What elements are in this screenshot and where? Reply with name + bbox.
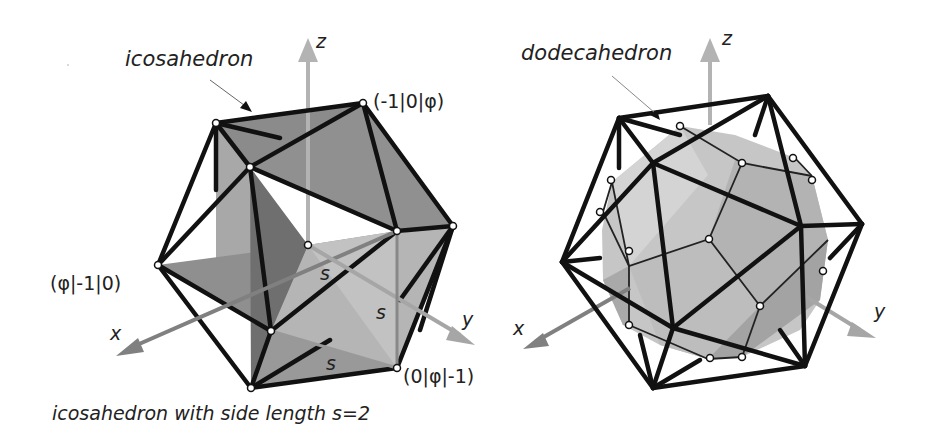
x-axis-right [523,288,630,349]
figure-caption: icosahedron with side length s=2 [52,402,370,424]
z-axis-label-right: z [721,27,733,49]
z-axis-right [700,38,720,125]
icosahedron-figure: icosahedron z x y (-1|0|φ) (φ|-1|0) (0|φ… [50,30,475,424]
y-axis-label: y [461,308,474,330]
edge-label-s-3: s [326,352,336,374]
vertex-label-left: (φ|-1|0) [50,272,121,295]
y-axis-label-right: y [873,300,886,322]
z-axis-label: z [315,30,327,52]
y-axis-right [800,293,876,338]
edge-label-s-1: s [320,262,330,284]
icosahedron-title: icosahedron [125,47,253,71]
vertex-label-top: (-1|0|φ) [373,90,444,113]
vertex-label-bottom: (0|φ|-1) [403,365,474,388]
dodecahedron-title: dodecahedron [521,41,672,65]
x-axis-label-right: x [512,317,525,339]
stray-dot [67,64,69,66]
dodecahedron-figure: dodecahedron z x y [512,27,886,388]
edge-label-s-2: s [376,301,386,323]
diagram-canvas: icosahedron z x y (-1|0|φ) (φ|-1|0) (0|φ… [0,0,936,439]
label-pointer-arrow [210,80,252,112]
x-axis-label: x [109,322,122,344]
